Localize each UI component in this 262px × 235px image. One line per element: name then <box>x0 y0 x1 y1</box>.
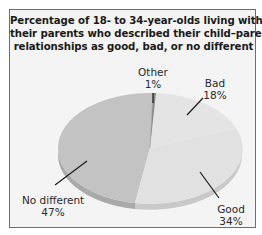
label-no-different: No different 47% <box>22 194 84 218</box>
label-other: Other 1% <box>137 66 169 90</box>
slice-no-different <box>58 93 153 203</box>
label-bad: Bad 18% <box>198 77 232 101</box>
label-good: Good 34% <box>214 203 248 227</box>
